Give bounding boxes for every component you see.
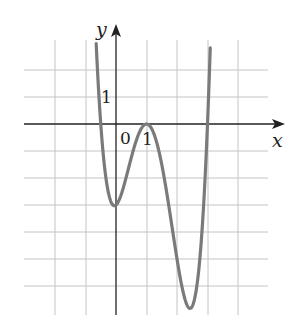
x-tick-label: 1: [142, 129, 153, 149]
y-tick-label: 1: [101, 87, 112, 107]
origin-label: 0: [120, 128, 131, 148]
grid: [24, 40, 268, 315]
function-curve: [96, 44, 210, 309]
axes: [24, 34, 278, 315]
y-axis-label: y: [95, 18, 107, 40]
x-axis-label: x: [272, 129, 283, 151]
function-graph: y x 0 1 1: [0, 0, 305, 328]
